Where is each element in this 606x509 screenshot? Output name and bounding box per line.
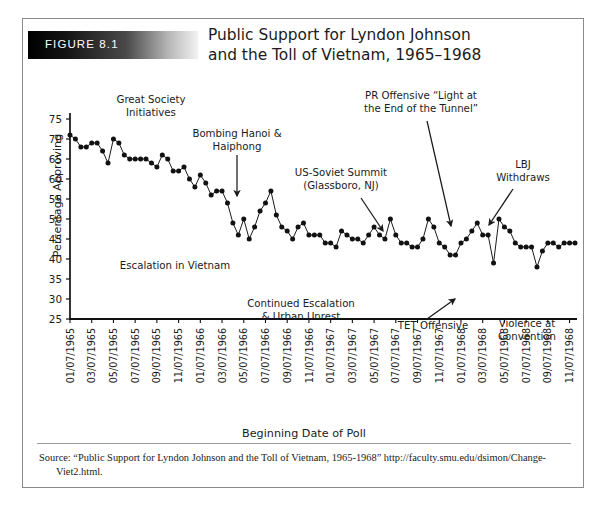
data-point [133,157,138,162]
data-point [334,245,339,250]
data-point [442,245,447,250]
data-point [198,173,203,178]
data-point [78,145,83,150]
data-point [187,177,192,182]
annotation-tet-offensive: TET Offensive [397,320,468,331]
annotation-pr-offensive: PR Offensive “Light atthe End of the Tun… [364,90,478,114]
chart-annotations: Great SocietyInitiativesBombing Hanoi &H… [116,90,556,342]
data-point [393,233,398,238]
data-point [573,241,578,246]
data-point [540,249,545,254]
data-point [556,245,561,250]
data-point [160,153,165,158]
data-point [513,241,518,246]
data-point [350,237,355,242]
data-point [176,169,181,174]
figure-number-badge: FIGURE 8.1 [28,31,198,59]
data-point [518,245,523,250]
data-point [339,229,344,234]
data-point [317,233,322,238]
data-point [323,241,328,246]
x-tick-label: 03/07/1968 [477,328,488,383]
annotation-continued-escalation: Continued Escalation& Urban Unrest [247,298,355,322]
x-tick-label: 01/07/1968 [456,328,467,383]
data-point [111,137,116,142]
data-point [274,213,279,218]
x-tick-label: 07/07/1966 [260,328,271,383]
data-point [116,141,121,146]
data-point [209,193,214,198]
x-tick-label: 05/07/1967 [369,328,380,383]
data-point [524,245,529,250]
data-point [285,229,290,234]
data-point [100,149,105,154]
data-point [84,145,89,150]
data-point [420,237,425,242]
y-tick-label: 30 [49,293,62,305]
data-point [171,169,176,174]
data-point [361,241,366,246]
data-point [388,217,393,222]
data-point [464,237,469,242]
data-point [377,233,382,238]
chart-axes [69,113,577,319]
x-tick-label: 11/07/1967 [434,328,445,383]
data-point [279,225,284,230]
x-tick-label: 11/07/1968 [564,328,575,383]
data-point [192,185,197,190]
data-point [426,217,431,222]
data-point [491,261,496,266]
data-point [355,237,360,242]
data-point [437,241,442,246]
data-point [366,233,371,238]
data-point [127,157,132,162]
data-point [241,217,246,222]
data-point [203,181,208,186]
data-point [382,237,387,242]
data-point [567,241,572,246]
data-point [448,253,453,258]
x-tick-label: 07/07/1965 [130,328,141,383]
data-point [138,157,143,162]
x-tick-label: 07/07/1967 [390,328,401,383]
x-tick-label: 03/07/1967 [347,328,358,383]
data-point [458,241,463,246]
x-tick-label: 05/07/1965 [108,328,119,383]
series-points [68,133,578,270]
data-point [214,189,219,194]
annotation-lbj-withdraws: LBJWithdraws [496,159,550,183]
data-point [453,253,458,258]
annotation-arrow-pr-offensive [427,121,451,226]
data-point [529,245,534,250]
data-point [149,161,154,166]
x-tick-label: 11/07/1966 [304,328,315,383]
figure-number-label: FIGURE 8.1 [45,38,119,50]
source-line-1: Source: “Public Support for Lyndon Johns… [39,452,546,463]
x-tick-label: 09/07/1967 [412,328,423,383]
data-point [562,241,567,246]
annotation-arrow-tet-offensive [427,299,455,319]
x-tick-label: 11/07/1965 [173,328,184,383]
data-point [296,225,301,230]
x-tick-label: 03/07/1966 [217,328,228,383]
data-point [399,241,404,246]
x-tick-label: 09/07/1966 [282,328,293,383]
data-point [220,189,225,194]
data-point [486,233,491,238]
chart-area: 253035404550556065707501/07/196503/07/19… [23,79,585,419]
series-line [70,135,575,267]
annotation-bombing-hanoi: Bombing Hanoi &Haiphong [192,128,281,152]
data-point [545,241,550,246]
annotation-us-soviet-summit: US-Soviet Summit(Glassboro, NJ) [295,167,387,191]
data-point [344,233,349,238]
data-point [290,237,295,242]
x-axis-title: Beginning Date of Poll [23,427,585,440]
x-tick-label: 05/07/1966 [238,328,249,383]
data-point [306,233,311,238]
data-point [154,165,159,170]
figure-header: FIGURE 8.1 Public Support for Lyndon Joh… [23,19,583,81]
data-point [312,233,317,238]
data-point [236,233,241,238]
source-divider [37,443,571,444]
annotation-escalation-vietnam: Escalation in Vietnam [120,260,230,271]
